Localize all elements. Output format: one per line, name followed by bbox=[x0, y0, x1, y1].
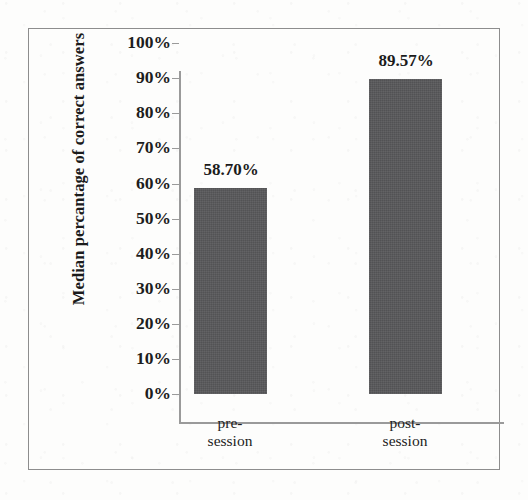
y-axis-line bbox=[179, 71, 181, 423]
y-tick-label-30: 30% bbox=[115, 280, 171, 298]
x-category-label-pre-session-line1: pre- bbox=[180, 414, 280, 432]
x-category-label-post-session-line2: session bbox=[355, 432, 455, 450]
y-tick-mark-20 bbox=[172, 324, 179, 325]
y-axis-title: Median percantage of correct answers bbox=[69, 19, 89, 319]
y-tick-mark-50 bbox=[172, 219, 179, 220]
y-tick-label-0: 0% bbox=[115, 385, 171, 403]
y-tick-label-50: 50% bbox=[115, 210, 171, 228]
y-tick-mark-90 bbox=[172, 78, 179, 79]
y-tick-label-100: 100% bbox=[115, 34, 171, 52]
y-tick-mark-100 bbox=[172, 43, 179, 44]
y-tick-mark-40 bbox=[172, 254, 179, 255]
bar-value-label-post-session: 89.57% bbox=[356, 51, 456, 71]
y-tick-label-20: 20% bbox=[115, 315, 171, 333]
x-category-label-post-session: post- session bbox=[355, 414, 455, 451]
y-tick-mark-80 bbox=[172, 113, 179, 114]
bar-value-label-pre-session: 58.70% bbox=[181, 160, 281, 180]
x-category-label-post-session-line1: post- bbox=[355, 414, 455, 432]
x-category-label-pre-session: pre- session bbox=[180, 414, 280, 451]
y-tick-label-10: 10% bbox=[115, 350, 171, 368]
x-category-label-pre-session-line2: session bbox=[180, 432, 280, 450]
y-tick-label-70: 70% bbox=[115, 139, 171, 157]
y-axis-tick-labels: 100% 90% 80% 70% 60% 50% 40% 30% 20% 10%… bbox=[115, 29, 171, 471]
y-tick-label-80: 80% bbox=[115, 104, 171, 122]
scanned-figure-page: Median percantage of correct answers 100… bbox=[0, 0, 528, 500]
bar-pre-session[interactable] bbox=[194, 188, 267, 394]
bar-post-session[interactable] bbox=[369, 79, 442, 394]
y-tick-mark-70 bbox=[172, 148, 179, 149]
y-tick-mark-60 bbox=[172, 184, 179, 185]
y-tick-mark-10 bbox=[172, 359, 179, 360]
chart-frame: Median percantage of correct answers 100… bbox=[28, 28, 500, 470]
y-tick-mark-0 bbox=[172, 394, 179, 395]
y-tick-label-60: 60% bbox=[115, 175, 171, 193]
y-tick-mark-30 bbox=[172, 289, 179, 290]
y-tick-label-90: 90% bbox=[115, 69, 171, 87]
y-tick-label-40: 40% bbox=[115, 245, 171, 263]
